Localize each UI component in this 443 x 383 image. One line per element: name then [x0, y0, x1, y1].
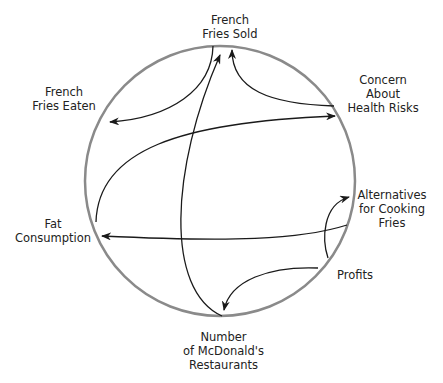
- node-fries-sold: French Fries Sold: [190, 13, 270, 41]
- node-health-concern: Concern About Health Risks: [342, 73, 424, 115]
- outer-circle: [85, 46, 355, 316]
- node-restaurants: Number of McDonald's Restaurants: [176, 330, 271, 372]
- node-label-line: Profits: [330, 268, 380, 282]
- node-label-line: Restaurants: [176, 358, 271, 372]
- node-label-line: Fat: [8, 217, 98, 231]
- arrow-restaurants-to-fries-sold: [181, 55, 222, 316]
- node-alternatives: Alternatives for Cooking Fries: [352, 188, 432, 230]
- arrow-health-to-fries-sold: [232, 50, 334, 106]
- node-label-line: Fries Eaten: [24, 99, 104, 113]
- node-label-line: for Cooking: [352, 202, 432, 216]
- node-label-line: Health Risks: [342, 101, 424, 115]
- node-label-line: Fries: [352, 216, 432, 230]
- node-label-line: Number: [176, 330, 271, 344]
- arrow-fat-to-health: [96, 116, 335, 222]
- arrow-profits-to-restaurants: [224, 268, 318, 310]
- node-label-line: of McDonald's: [176, 344, 271, 358]
- node-label-line: About: [342, 87, 424, 101]
- node-label-line: Consumption: [8, 231, 98, 245]
- node-label-line: Alternatives: [352, 188, 432, 202]
- node-profits: Profits: [330, 268, 380, 282]
- node-label-line: Concern: [342, 73, 424, 87]
- node-label-line: French: [24, 85, 104, 99]
- node-fries-eaten: French Fries Eaten: [24, 85, 104, 113]
- node-label-line: Fries Sold: [190, 27, 270, 41]
- node-label-line: French: [190, 13, 270, 27]
- node-fat-consumption: Fat Consumption: [8, 217, 98, 245]
- arrow-alternatives-to-fat: [102, 225, 347, 239]
